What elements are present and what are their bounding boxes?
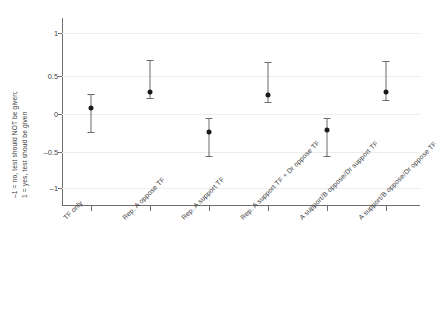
gridline-0_5 bbox=[62, 76, 420, 77]
y-axis-title-line-1: –1 = no, test should NOT be given; bbox=[11, 91, 18, 198]
error-cap-upper-2 bbox=[147, 60, 154, 61]
y-tick-label-0: 0 bbox=[40, 110, 58, 119]
y-tick-label-0_5: 0.5 bbox=[40, 72, 58, 81]
x-tick-mark-2 bbox=[150, 206, 151, 211]
x-tick-mark-1 bbox=[91, 206, 92, 211]
data-point-6[interactable] bbox=[384, 90, 389, 95]
gridline-0 bbox=[62, 114, 420, 115]
error-cap-upper-3 bbox=[206, 118, 213, 119]
y-axis-tick-labels: 1 0.5 0 –0.5 –1 bbox=[36, 0, 58, 327]
error-bar-5 bbox=[327, 118, 328, 156]
data-point-4[interactable] bbox=[266, 93, 271, 98]
x-tick-mark-4 bbox=[268, 206, 269, 211]
error-bar-3 bbox=[209, 118, 210, 156]
y-tick-label-1: 1 bbox=[40, 29, 58, 38]
y-tick-label-neg0_5: –0.5 bbox=[40, 148, 58, 157]
x-axis-line bbox=[62, 205, 420, 206]
x-tick-mark-6 bbox=[386, 206, 387, 211]
gridline-neg1 bbox=[62, 188, 420, 189]
error-cap-upper-4 bbox=[265, 62, 272, 63]
y-axis-title: –1 = no, test should NOT be given; 1 = y… bbox=[0, 0, 40, 210]
error-cap-upper-5 bbox=[324, 118, 331, 119]
error-bar-1 bbox=[91, 94, 92, 132]
data-point-1[interactable] bbox=[89, 106, 94, 111]
y-tick-label-neg1: –1 bbox=[40, 184, 58, 193]
error-cap-lower-4 bbox=[265, 102, 272, 103]
y-axis-title-line-2: 1 = yes, test shoud be given bbox=[21, 112, 28, 199]
error-cap-lower-6 bbox=[383, 100, 390, 101]
error-cap-lower-1 bbox=[88, 132, 95, 133]
x-tick-mark-5 bbox=[327, 206, 328, 211]
gridline-neg0_5 bbox=[62, 152, 420, 153]
data-point-2[interactable] bbox=[148, 90, 153, 95]
plot-area bbox=[62, 18, 420, 205]
error-cap-lower-3 bbox=[206, 156, 213, 157]
x-tick-mark-3 bbox=[209, 206, 210, 211]
error-cap-upper-6 bbox=[383, 61, 390, 62]
gridline-1 bbox=[62, 33, 420, 34]
data-point-3[interactable] bbox=[207, 130, 212, 135]
error-cap-lower-5 bbox=[324, 156, 331, 157]
error-cap-lower-2 bbox=[147, 98, 154, 99]
data-point-5[interactable] bbox=[325, 128, 330, 133]
error-cap-upper-1 bbox=[88, 94, 95, 95]
